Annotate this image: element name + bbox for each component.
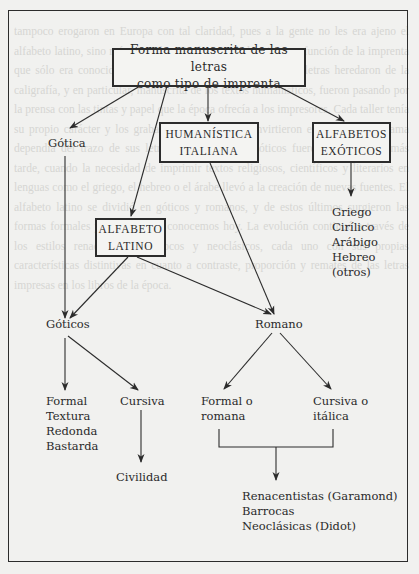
arrow-title-to-exoticos <box>278 86 344 121</box>
latino-line-2: LATINO <box>108 238 153 255</box>
arrow-humanistica-to-romano <box>210 163 274 314</box>
exoticos-line-1: ALFABETOS <box>316 126 387 143</box>
arrow-goticos-to-cursiva <box>68 336 138 390</box>
title-line-1: Forma manuscrita de las letras <box>114 42 304 76</box>
node-cursiva: Cursiva <box>120 394 165 409</box>
cursiva-italica-line-1: Cursiva o <box>313 394 368 409</box>
list-item-hebreo: Hebreo <box>332 250 378 265</box>
style-renacentistas: Renacentistas (Garamond) <box>242 489 398 504</box>
style-neoclasicas: Neoclásicas (Didot) <box>242 519 398 534</box>
node-goticos: Góticos <box>46 317 90 332</box>
style-barrocas: Barrocas <box>242 504 398 519</box>
list-item-griego: Griego <box>332 205 378 220</box>
humanistica-line-2: ITALIANA <box>180 143 239 160</box>
node-romano-styles: Renacentistas (Garamond) Barrocas Neoclá… <box>242 489 398 534</box>
list-item-otros: (otros) <box>332 265 378 280</box>
title-line-2: como tipo de imprenta <box>137 76 281 93</box>
list-item-formal: Formal <box>46 394 98 409</box>
formal-romana-line-1: Formal o <box>201 394 253 409</box>
node-formal-list: Formal Textura Redonda Bastarda <box>46 394 98 454</box>
node-formal-o-romana: Formal o romana <box>201 394 253 424</box>
arrow-latino-to-goticos <box>70 257 128 318</box>
node-romano: Romano <box>255 317 303 332</box>
node-civilidad: Civilidad <box>116 470 168 485</box>
arrow-romano-to-formal-romana <box>224 333 272 389</box>
node-alfabeto-latino: ALFABETO LATINO <box>95 218 166 257</box>
arrow-title-to-gotica <box>70 86 140 128</box>
list-item-arabigo: Arábigo <box>332 235 378 250</box>
node-humanistica-italiana: HUMANÍSTICA ITALIANA <box>159 122 259 163</box>
list-item-redonda: Redonda <box>46 424 98 439</box>
humanistica-line-1: HUMANÍSTICA <box>165 126 252 143</box>
list-item-textura: Textura <box>46 409 98 424</box>
arrow-romano-to-cursiva-italica <box>280 333 331 389</box>
exoticos-line-2: EXÓTICOS <box>321 143 383 160</box>
node-title-box: Forma manuscrita de las letras como tipo… <box>112 48 306 87</box>
node-gotica: Gótica <box>48 136 86 151</box>
arrow-latino-to-romano <box>137 257 271 314</box>
node-exoticos-list: Griego Cirílico Arábigo Hebreo (otros) <box>332 205 378 280</box>
node-cursiva-o-italica: Cursiva o itálica <box>313 394 368 424</box>
list-item-bastarda: Bastarda <box>46 439 98 454</box>
bracket-romano-styles <box>219 429 333 447</box>
node-alfabetos-exoticos: ALFABETOS EXÓTICOS <box>312 122 391 163</box>
list-item-cirilico: Cirílico <box>332 220 378 235</box>
latino-line-1: ALFABETO <box>99 221 163 238</box>
formal-romana-line-2: romana <box>201 409 253 424</box>
cursiva-italica-line-2: itálica <box>313 409 368 424</box>
